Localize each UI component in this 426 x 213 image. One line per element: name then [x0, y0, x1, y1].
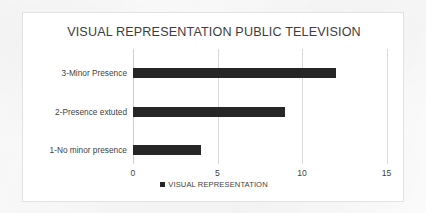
chart-title: VISUAL REPRESENTATION PUBLIC TELEVISION	[23, 25, 405, 39]
plot-area: 1-No minor presence2-Presence extuted3-M…	[133, 49, 391, 164]
chart-screenshot: VISUAL REPRESENTATION PUBLIC TELEVISION …	[0, 0, 426, 213]
x-tick-label-0: 0	[131, 168, 136, 178]
gridline-10	[302, 49, 303, 164]
bar-0	[133, 145, 201, 155]
gridline-15	[387, 49, 388, 164]
x-tick-label-15: 15	[382, 168, 392, 178]
x-tick-label-10: 10	[297, 168, 307, 178]
category-label-2: 3-Minor Presence	[0, 68, 127, 78]
legend-label: VISUAL REPRESENTATION	[168, 180, 267, 189]
bar-2	[133, 68, 336, 78]
x-tick-label-5: 5	[215, 168, 220, 178]
category-label-0: 1-No minor presence	[0, 145, 127, 155]
chart-legend: VISUAL REPRESENTATION	[23, 180, 405, 189]
bar-1	[133, 107, 285, 117]
category-label-1: 2-Presence extuted	[0, 107, 127, 117]
legend-swatch-icon	[160, 182, 165, 187]
chart-frame: VISUAL REPRESENTATION PUBLIC TELEVISION …	[22, 12, 404, 202]
